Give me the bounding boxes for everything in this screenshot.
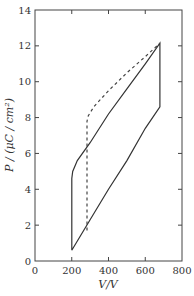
- y-tick-label: 12: [18, 40, 31, 51]
- x-tick-label: 400: [99, 265, 118, 276]
- y-tick-label: 6: [25, 148, 31, 159]
- y-tick-label: 8: [25, 112, 31, 123]
- x-tick-label: 0: [32, 265, 38, 276]
- chart-svg: 0200400600800 02468101214 V/V P / (μC / …: [0, 0, 194, 296]
- initial-dashed-line: [87, 43, 160, 230]
- y-tick-label: 0: [25, 256, 31, 267]
- y-tick-labels: 02468101214: [18, 5, 31, 267]
- x-axis-title: V/V: [98, 278, 119, 291]
- y-axis-title: P / (μC / cm²): [3, 98, 16, 173]
- x-tick-labels: 0200400600800: [32, 265, 192, 276]
- y-tick-label: 10: [18, 76, 31, 87]
- x-tick-label: 600: [136, 265, 155, 276]
- y-tick-label: 14: [18, 5, 31, 16]
- x-tick-label: 200: [62, 265, 81, 276]
- y-tick-label: 4: [25, 184, 31, 195]
- x-tick-label: 800: [172, 265, 191, 276]
- hysteresis-loop-line: [72, 43, 160, 250]
- y-tick-label: 2: [25, 220, 31, 231]
